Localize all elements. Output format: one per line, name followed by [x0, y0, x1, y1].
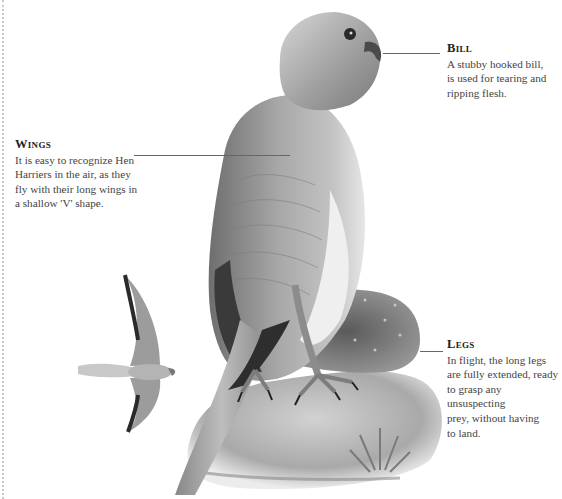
callout-bill-heading: Bill: [447, 41, 562, 56]
callout-wings-body: It is easy to recognize Hen Harriers in …: [15, 153, 155, 211]
callout-legs-heading: Legs: [447, 337, 562, 352]
callout-legs: Legs In flight, the long legs are fully …: [447, 337, 562, 440]
callout-wings-line: Harriers in the air, as they: [15, 167, 155, 182]
callout-wings: Wings It is easy to recognize Hen Harrie…: [15, 137, 155, 211]
legs-leader-line: [420, 351, 443, 352]
callout-legs-body: In flight, the long legs are fully exten…: [447, 353, 562, 441]
callout-legs-line: In flight, the long legs: [447, 353, 562, 368]
callout-bill-line: is used for tearing and: [447, 71, 562, 86]
callout-legs-line: are fully extended, ready: [447, 367, 562, 382]
wings-leader-line: [134, 155, 290, 156]
callout-wings-line: It is easy to recognize Hen: [15, 153, 155, 168]
flying-harrier-inset: [78, 275, 175, 432]
callout-legs-line: to grasp any unsuspecting: [447, 382, 562, 411]
callout-legs-line: to land.: [447, 426, 562, 441]
callout-bill-body: A stubby hooked bill, is used for tearin…: [447, 57, 562, 101]
callout-bill: Bill A stubby hooked bill, is used for t…: [447, 41, 562, 100]
callout-wings-heading: Wings: [15, 137, 155, 152]
callout-bill-line: A stubby hooked bill,: [447, 57, 562, 72]
callout-legs-line: prey, without having: [447, 411, 562, 426]
callout-wings-line: a shallow 'V' shape.: [15, 196, 155, 211]
callout-bill-line: ripping flesh.: [447, 86, 562, 101]
callout-wings-line: fly with their long wings in: [15, 182, 155, 197]
bill-leader-line: [383, 53, 440, 54]
